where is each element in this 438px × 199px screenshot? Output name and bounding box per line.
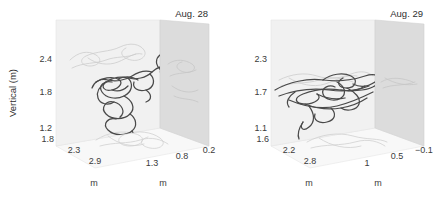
- x-tick-2: 2.8: [304, 156, 317, 166]
- panel-left: Aug. 28 Vertical (m) 2.4 1.8 1.2 1.8 2.3…: [0, 0, 219, 199]
- y-axis-unit-label: m: [159, 178, 167, 188]
- y-tick-2: 1: [364, 158, 369, 168]
- figure-container: Aug. 28 Vertical (m) 2.4 1.8 1.2 1.8 2.3…: [0, 0, 438, 199]
- panel-date-label: Aug. 29: [390, 8, 423, 19]
- x-tick-1: 2.2: [283, 145, 296, 155]
- panel-date-label: Aug. 28: [175, 8, 208, 19]
- vertical-axis-title: Vertical (m): [7, 69, 18, 117]
- y-tick-0: 0.2: [203, 145, 216, 155]
- z-tick-1: 1.7: [254, 87, 267, 97]
- z-tick-1: 1.8: [39, 87, 52, 97]
- x-tick-0: 1.6: [256, 134, 269, 144]
- z-tick-0: 2.3: [254, 54, 267, 64]
- y-tick-1: 0.5: [391, 151, 404, 161]
- x-tick-1: 2.3: [68, 145, 81, 155]
- box-left-wall: [271, 20, 375, 146]
- box-right-wall: [160, 20, 209, 146]
- z-tick-0: 2.4: [39, 54, 52, 64]
- x-axis-unit-label: m: [305, 178, 313, 188]
- x-tick-0: 1.8: [41, 134, 54, 144]
- y-axis-unit-label: m: [374, 178, 382, 188]
- y-tick-2: 1.3: [146, 158, 159, 168]
- y-tick-1: 0.8: [176, 151, 189, 161]
- panel-right: Aug. 29 2.3 1.7 1.1 1.6 2.2 2.8 −0.1 0.5…: [219, 0, 438, 199]
- y-tick-0: −0.1: [415, 145, 433, 155]
- z-tick-2: 1.1: [254, 123, 267, 133]
- box-right-wall: [375, 20, 424, 146]
- z-tick-2: 1.2: [39, 123, 52, 133]
- x-axis-unit-label: m: [90, 178, 98, 188]
- x-tick-2: 2.9: [89, 156, 102, 166]
- box-left-wall: [56, 20, 160, 146]
